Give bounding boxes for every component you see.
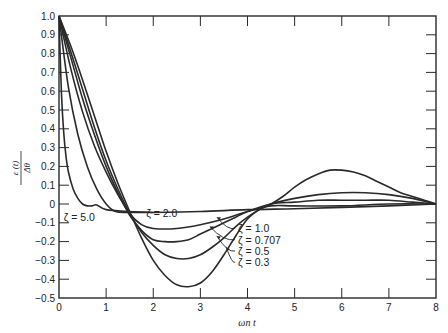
y-axis-label-numerator: ε (t)	[10, 161, 20, 175]
y-axis-label-denominator: Δθ	[22, 163, 32, 174]
y-tick-label: −0.5	[35, 293, 55, 304]
x-tick-label: 8	[433, 302, 439, 313]
series-annotation: ζ = 1.0	[238, 222, 269, 234]
x-tick-label: 2	[150, 302, 156, 313]
y-tick-label: 0.9	[41, 29, 55, 40]
x-tick-label: 5	[292, 302, 298, 313]
x-tick-label: 0	[56, 302, 62, 313]
y-tick-label: −0.1	[35, 217, 55, 228]
x-axis-label: ωn t	[238, 317, 256, 328]
series-annotation: ζ = 5.0	[64, 211, 95, 223]
y-tick-label: 0.5	[41, 105, 55, 116]
x-tick-label: 4	[245, 302, 251, 313]
y-tick-label: 0.6	[41, 86, 55, 97]
series-annotation: ζ = 0.3	[238, 256, 269, 268]
y-tick-label: 1.0	[41, 11, 55, 22]
y-tick-label: −0.2	[35, 236, 55, 247]
y-axis-label: ε (t) Δθ	[10, 151, 32, 185]
y-tick-label: −0.4	[35, 274, 55, 285]
x-tick-label: 6	[339, 302, 345, 313]
y-tick-label: 0.8	[41, 48, 55, 59]
y-tick-label: 0.3	[41, 142, 55, 153]
y-tick-label: 0.4	[41, 123, 55, 134]
series-annotation: ζ = 0.707	[238, 234, 281, 246]
y-tick-label: 0	[49, 199, 55, 210]
series-line	[59, 16, 436, 242]
series-annotation: ζ = 2.0	[146, 207, 177, 219]
y-tick-label: 0.7	[41, 67, 55, 78]
y-tick-label: −0.3	[35, 255, 55, 266]
x-tick-label: 1	[103, 302, 109, 313]
series-annotation: ζ = 0.5	[238, 245, 269, 257]
x-tick-label: 3	[198, 302, 204, 313]
series-line	[59, 16, 436, 229]
y-tick-label: 0.2	[41, 161, 55, 172]
chart: 0123456781.00.90.80.70.60.50.40.30.20.10…	[0, 0, 448, 333]
x-tick-label: 7	[386, 302, 392, 313]
y-tick-label: 0.1	[41, 180, 55, 191]
